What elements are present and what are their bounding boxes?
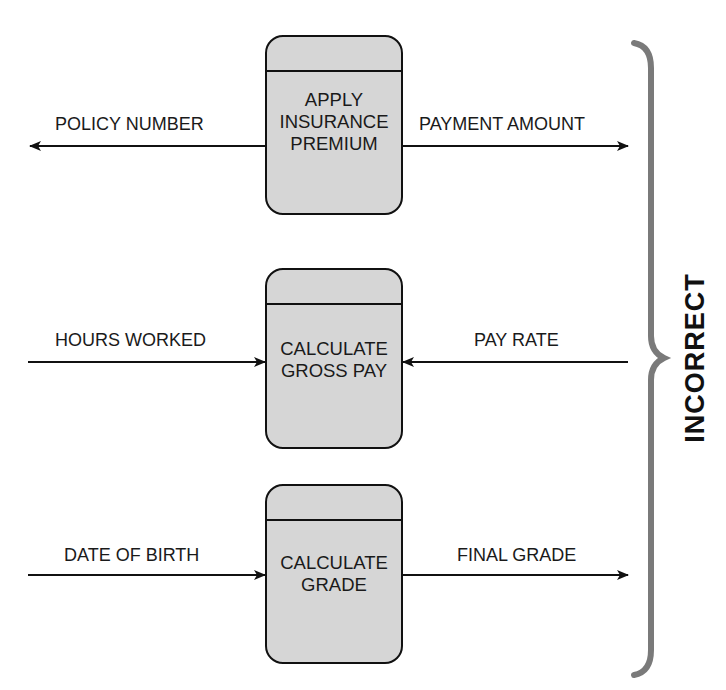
process-label: APPLY INSURANCE PREMIUM	[267, 89, 401, 155]
process-label-line: PREMIUM	[267, 133, 401, 155]
hours-worked-label: HOURS WORKED	[55, 330, 206, 351]
process-header	[267, 270, 401, 305]
process-label: CALCULATE GRADE	[267, 552, 401, 596]
process-label: CALCULATE GROSS PAY	[267, 338, 401, 382]
process-calculate-gross-pay: CALCULATE GROSS PAY	[265, 268, 403, 449]
policy-number-label: POLICY NUMBER	[55, 114, 204, 135]
process-label-line: APPLY	[267, 89, 401, 111]
payment-amount-label: PAYMENT AMOUNT	[419, 114, 585, 135]
process-label-line: CALCULATE	[267, 338, 401, 360]
process-label-line: CALCULATE	[267, 552, 401, 574]
process-label-line: GROSS PAY	[267, 360, 401, 382]
process-calculate-grade: CALCULATE GRADE	[265, 484, 403, 664]
verdict-label: INCORRECT	[680, 273, 711, 443]
process-label-line: GRADE	[267, 574, 401, 596]
process-header	[267, 37, 401, 72]
curly-brace-icon	[634, 43, 664, 675]
process-apply-insurance-premium: APPLY INSURANCE PREMIUM	[265, 35, 403, 215]
process-label-line: INSURANCE	[267, 111, 401, 133]
final-grade-label: FINAL GRADE	[457, 545, 576, 566]
pay-rate-label: PAY RATE	[474, 330, 559, 351]
process-header	[267, 486, 401, 521]
date-of-birth-label: DATE OF BIRTH	[64, 545, 199, 566]
